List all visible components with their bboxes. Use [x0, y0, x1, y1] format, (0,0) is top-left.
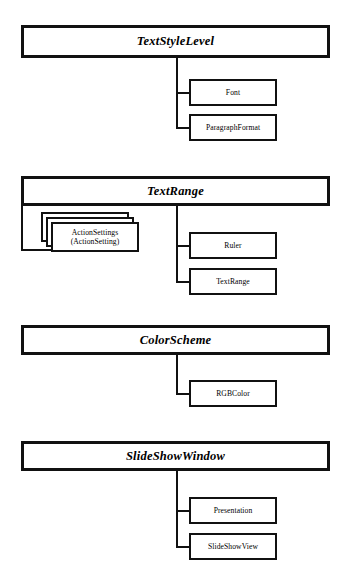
child-label-actionsettings: ActionSettings (ActionSetting): [71, 228, 120, 247]
child-label-paragraphformat: ParagraphFormat: [206, 123, 260, 132]
child-label-rgbcolor: RGBColor: [216, 389, 250, 398]
child-label-slideshowview: SlideShowView: [208, 542, 258, 551]
child-label-ruler: Ruler: [224, 241, 241, 250]
parent-box-textrange[interactable]: TextRange: [21, 176, 330, 206]
child-label-font: Font: [226, 88, 240, 97]
child-box-rgbcolor[interactable]: RGBColor: [189, 380, 277, 407]
connector-horizontal-textrange-child: [176, 281, 190, 283]
child-box-textrange[interactable]: TextRange: [189, 268, 277, 295]
parent-box-textstylelevel[interactable]: TextStyleLevel: [21, 25, 330, 58]
connector-horizontal-presentation: [176, 510, 190, 512]
parent-box-slideshowwindow[interactable]: SlideShowWindow: [21, 441, 330, 471]
parent-label-textrange: TextRange: [147, 184, 204, 199]
child-box-presentation[interactable]: Presentation: [189, 497, 277, 524]
parent-label-textstylelevel: TextStyleLevel: [137, 34, 214, 49]
connector-horizontal-actionsettings: [21, 249, 52, 251]
child-label-textrange: TextRange: [216, 277, 250, 286]
child-box-paragraphformat[interactable]: ParagraphFormat: [189, 114, 277, 141]
object-model-diagram: TextStyleLevel Font ParagraphFormat Text…: [0, 0, 347, 583]
parent-box-colorscheme[interactable]: ColorScheme: [21, 325, 330, 355]
connector-horizontal-paragraphformat: [176, 127, 190, 129]
connector-vertical-textrange: [176, 206, 178, 282]
connector-vertical-slideshowwindow: [176, 471, 178, 547]
child-box-ruler[interactable]: Ruler: [189, 232, 277, 259]
connector-horizontal-font: [176, 92, 190, 94]
connector-vertical-colorscheme: [176, 355, 178, 395]
child-box-slideshowview[interactable]: SlideShowView: [189, 533, 277, 560]
connector-horizontal-slideshowview: [176, 546, 190, 548]
child-box-font[interactable]: Font: [189, 79, 277, 106]
parent-label-slideshowwindow: SlideShowWindow: [126, 449, 225, 464]
child-label-presentation: Presentation: [214, 506, 253, 515]
child-box-actionsettings[interactable]: ActionSettings (ActionSetting): [51, 222, 139, 252]
connector-horizontal-rgbcolor: [176, 393, 190, 395]
connector-horizontal-ruler: [176, 245, 190, 247]
parent-label-colorscheme: ColorScheme: [140, 333, 212, 348]
connector-vertical-actionsettings: [21, 206, 23, 251]
